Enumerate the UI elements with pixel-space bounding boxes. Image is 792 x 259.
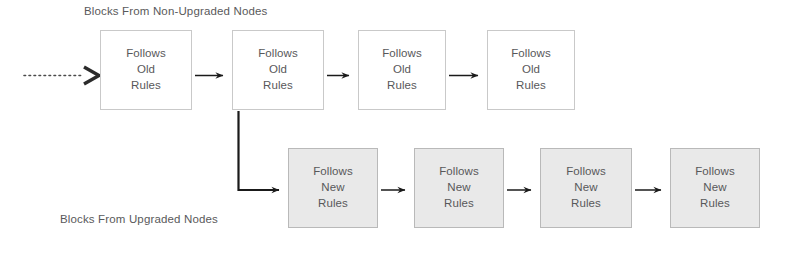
chain-label-non-upgraded: Blocks From Non-Upgraded Nodes — [84, 6, 267, 18]
block-old-3-line3: Rules — [387, 78, 417, 94]
block-old-1-line2: Old — [137, 62, 155, 78]
block-new-1-line1: Follows — [313, 164, 353, 180]
block-old-2-line2: Old — [269, 62, 287, 78]
incoming-dotted-arrow — [24, 67, 99, 84]
block-new-2-line2: New — [447, 180, 470, 196]
block-new-4-line2: New — [703, 180, 726, 196]
fork-branch-arrow — [239, 111, 280, 190]
chain-label-upgraded: Blocks From Upgraded Nodes — [60, 214, 218, 226]
block-new-4-line3: Rules — [700, 196, 730, 212]
block-new-2-line1: Follows — [439, 164, 479, 180]
diagram-canvas: Blocks From Non-Upgraded Nodes Blocks Fr… — [0, 0, 792, 259]
block-new-3-line3: Rules — [571, 196, 601, 212]
block-new-1-line2: New — [321, 180, 344, 196]
block-new-2: Follows New Rules — [414, 148, 504, 228]
block-old-2-line3: Rules — [263, 78, 293, 94]
block-old-2-line1: Follows — [258, 46, 298, 62]
block-old-1: Follows Old Rules — [100, 30, 192, 110]
block-old-4-line1: Follows — [511, 46, 551, 62]
block-new-1: Follows New Rules — [288, 148, 378, 228]
block-new-1-line3: Rules — [318, 196, 348, 212]
block-old-4: Follows Old Rules — [487, 30, 575, 110]
block-new-4: Follows New Rules — [670, 148, 760, 228]
block-old-3-line1: Follows — [382, 46, 422, 62]
block-old-4-line2: Old — [522, 62, 540, 78]
block-new-2-line3: Rules — [444, 196, 474, 212]
block-new-4-line1: Follows — [695, 164, 735, 180]
block-old-1-line3: Rules — [131, 78, 161, 94]
block-old-3-line2: Old — [393, 62, 411, 78]
block-new-3-line1: Follows — [566, 164, 606, 180]
block-old-3: Follows Old Rules — [358, 30, 446, 110]
block-old-2: Follows Old Rules — [232, 30, 324, 110]
block-old-1-line1: Follows — [126, 46, 166, 62]
block-new-3-line2: New — [574, 180, 597, 196]
block-new-3: Follows New Rules — [540, 148, 632, 228]
block-old-4-line3: Rules — [516, 78, 546, 94]
